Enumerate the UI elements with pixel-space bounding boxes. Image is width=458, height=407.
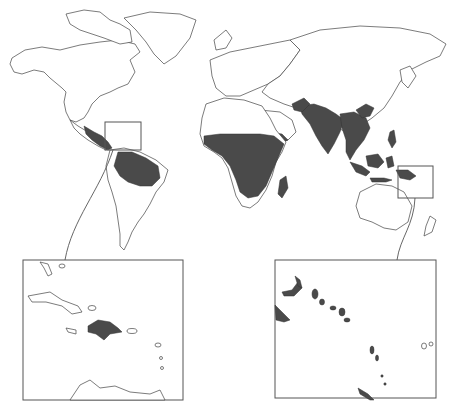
madagascar-shaded bbox=[278, 176, 288, 198]
melanesia-inset bbox=[275, 260, 436, 400]
png-shaded bbox=[396, 170, 416, 180]
south-america bbox=[106, 148, 168, 250]
north-america bbox=[10, 10, 196, 150]
southeast-asia-shaded bbox=[340, 112, 370, 160]
caribbean-inset bbox=[23, 260, 183, 400]
subsaharan-shaded bbox=[204, 134, 284, 198]
oceania bbox=[356, 184, 436, 236]
world-map bbox=[0, 0, 458, 407]
